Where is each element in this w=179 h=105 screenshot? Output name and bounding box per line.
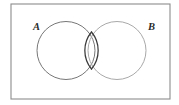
set-a-circle — [37, 22, 95, 80]
set-b-label: B — [147, 21, 155, 32]
venn-diagram-figure: A B — [0, 0, 179, 105]
venn-diagram-canvas: A B — [0, 0, 179, 105]
set-b-circle — [88, 22, 146, 80]
set-a-label: A — [32, 21, 40, 32]
